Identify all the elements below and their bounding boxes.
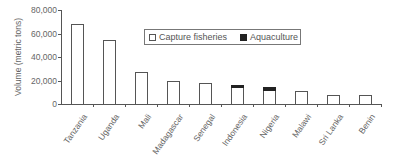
x-tick-label: Mali (136, 112, 153, 131)
y-tick-label: 0 (52, 99, 57, 109)
bar-capture-mali (135, 72, 148, 105)
bar-capture-malawi (295, 91, 308, 105)
aquaculture-swatch-icon (240, 34, 247, 41)
bar-capture-sri-lanka (327, 95, 340, 105)
bar-aquaculture-nigeria (263, 87, 276, 91)
x-tick (125, 104, 126, 107)
bar-capture-madagascar (167, 81, 180, 105)
y-tick-label: 80,000 (31, 5, 57, 15)
legend: Capture fisheries Aquaculture (144, 29, 301, 45)
capture-swatch-icon (149, 34, 156, 41)
bar-capture-nigeria (263, 90, 276, 105)
x-tick-label: Indonesia (220, 112, 249, 148)
x-tick (381, 104, 382, 107)
bar-capture-tanzania (71, 24, 84, 105)
x-tick (285, 104, 286, 107)
legend-label-capture: Capture fisheries (159, 32, 227, 42)
x-tick (317, 104, 318, 107)
y-tick-label: 60,000 (31, 29, 57, 39)
legend-item-aquaculture: Aquaculture (240, 32, 298, 42)
x-tick-label: Madagascar (150, 112, 185, 156)
x-tick-label: Malawi (290, 112, 313, 139)
x-tick-label: Senegal (191, 112, 217, 143)
x-tick (157, 104, 158, 107)
bar-aquaculture-indonesia (231, 85, 244, 88)
y-tick-label: 20,000 (31, 76, 57, 86)
y-axis-label: Volume (metric tons) (13, 18, 23, 96)
bar-capture-uganda (103, 40, 116, 105)
bar-capture-indonesia (231, 87, 244, 105)
y-tick-label: 40,000 (31, 52, 57, 62)
x-tick-label: Uganda (96, 112, 121, 142)
x-tick (93, 104, 94, 107)
legend-item-capture: Capture fisheries (149, 32, 227, 42)
bar-capture-senegal (199, 83, 212, 105)
x-tick-label: Nigeria (258, 112, 282, 140)
x-tick-label: Sri Lanka (316, 112, 345, 147)
legend-label-aquaculture: Aquaculture (250, 32, 298, 42)
x-tick (189, 104, 190, 107)
x-tick-label: Tanzania (61, 112, 89, 146)
x-tick (221, 104, 222, 107)
x-tick (349, 104, 350, 107)
x-tick-label: Benin (357, 112, 378, 136)
y-axis-line (61, 10, 62, 104)
bar-capture-benin (359, 95, 372, 105)
stacked-bar-chart: Volume (metric tons) 020,00040,00060,000… (0, 0, 393, 161)
x-tick (253, 104, 254, 107)
